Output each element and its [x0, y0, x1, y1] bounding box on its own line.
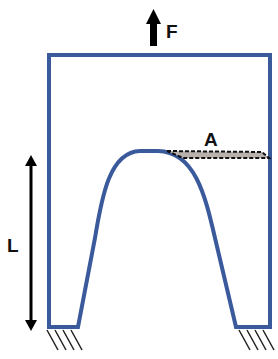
length-label: L — [7, 235, 19, 256]
right-fixed-support-icon — [239, 330, 274, 350]
force-label: F — [166, 21, 178, 42]
force-arrow-icon — [146, 9, 161, 46]
structure-outline — [49, 55, 270, 327]
left-fixed-support-icon — [47, 330, 82, 350]
cross-section-area — [167, 151, 269, 158]
diagram-canvas: F A L — [0, 0, 278, 359]
length-dimension-arrow-icon — [25, 155, 37, 331]
area-label: A — [204, 129, 218, 150]
